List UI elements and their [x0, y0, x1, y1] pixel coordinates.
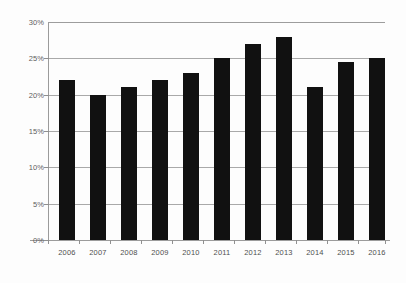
x-tick-label-2006: 2006 — [50, 248, 84, 257]
x-tick-mark-9 — [327, 240, 328, 244]
bar-chart: 30% 25% 20% 15% 10% 5% 0% — [0, 0, 406, 283]
x-tick-label-2011: 2011 — [205, 248, 239, 257]
x-tick-mark-10 — [358, 240, 359, 244]
x-tick-label-2007: 2007 — [81, 248, 115, 257]
x-tick-label-2009: 2009 — [143, 248, 177, 257]
x-tick-mark-6 — [234, 240, 235, 244]
x-tick-mark-5 — [203, 240, 204, 244]
x-axis-labels: 2006 2007 2008 2009 2010 2011 2012 2013 … — [48, 248, 385, 266]
x-tick-mark-11 — [385, 240, 386, 244]
x-tick-mark-2 — [110, 240, 111, 244]
x-tick-label-2015: 2015 — [329, 248, 363, 257]
x-tick-mark-0 — [48, 240, 49, 244]
x-tick-label-2016: 2016 — [360, 248, 394, 257]
x-tick-label-2012: 2012 — [236, 248, 270, 257]
x-tick-label-2014: 2014 — [298, 248, 332, 257]
x-tick-label-2008: 2008 — [112, 248, 146, 257]
x-tick-label-2010: 2010 — [174, 248, 208, 257]
x-tick-mark-3 — [141, 240, 142, 244]
x-tick-mark-4 — [172, 240, 173, 244]
x-tick-mark-1 — [79, 240, 80, 244]
x-tick-mark-8 — [296, 240, 297, 244]
x-ticks-layer — [0, 0, 406, 283]
x-tick-mark-7 — [265, 240, 266, 244]
x-tick-label-2013: 2013 — [267, 248, 301, 257]
